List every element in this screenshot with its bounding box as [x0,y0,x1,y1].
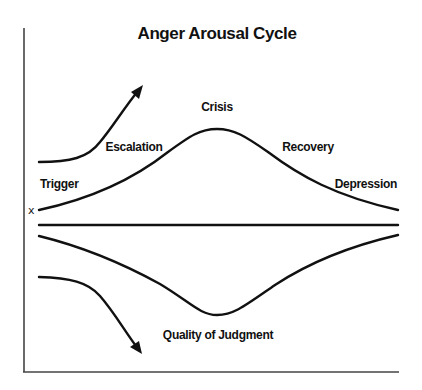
anger-arousal-cycle-diagram: Anger Arousal Cycle Crisis Escalation Re… [0,0,422,390]
label-escalation: Escalation [105,140,162,154]
arousal-curve [39,129,398,210]
baseline-marker: x [28,204,35,217]
judgment-curve [39,235,398,315]
label-trigger: Trigger [40,177,79,191]
falling-arrow [39,277,136,346]
label-recovery: Recovery [282,140,334,154]
label-quality-of-judgment: Quality of Judgment [163,328,274,342]
label-depression: Depression [335,177,397,191]
diagram-title: Anger Arousal Cycle [138,24,297,43]
label-crisis: Crisis [201,100,233,114]
falling-arrowhead-icon [130,341,142,354]
